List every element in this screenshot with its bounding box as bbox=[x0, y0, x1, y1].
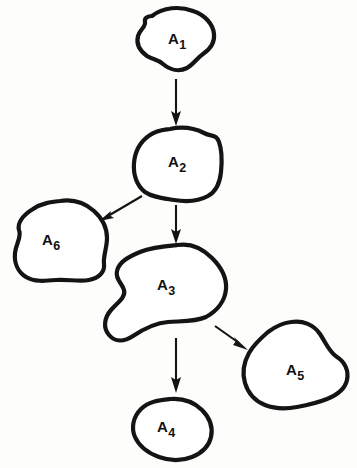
edge-a2-a3 bbox=[171, 205, 181, 244]
node-a5[interactable]: A5 bbox=[244, 322, 348, 409]
blob-a6-outline[interactable] bbox=[15, 200, 107, 280]
edge-a1-a2 bbox=[171, 79, 181, 126]
edge-a2-a6 bbox=[99, 196, 142, 221]
edge-a2-a6-line bbox=[108, 196, 142, 216]
node-a4[interactable]: A4 bbox=[133, 399, 212, 460]
edge-a3-a5 bbox=[215, 326, 248, 350]
node-a2[interactable]: A2 bbox=[134, 128, 222, 201]
edge-a3-a5-line bbox=[215, 326, 239, 343]
node-a6[interactable]: A6 bbox=[15, 200, 107, 280]
diagram-canvas: A1 A2 A3 A4 A5 A6 bbox=[0, 0, 357, 468]
node-a1[interactable]: A1 bbox=[137, 8, 214, 70]
node-a3[interactable]: A3 bbox=[105, 245, 226, 341]
edge-a3-a4 bbox=[171, 338, 181, 393]
blob-diagram-svg: A1 A2 A3 A4 A5 A6 bbox=[0, 0, 357, 468]
node-layer: A1 A2 A3 A4 A5 A6 bbox=[15, 8, 348, 460]
edge-a3-a5-arrowhead bbox=[233, 337, 248, 350]
edge-layer bbox=[99, 79, 248, 393]
